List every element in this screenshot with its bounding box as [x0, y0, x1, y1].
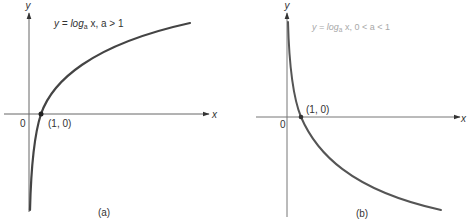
log-curve-increasing: [30, 23, 190, 210]
point-1-0-b: [299, 115, 304, 120]
function-title-b: y = loga x, 0 < a < 1: [311, 22, 390, 33]
y-axis-label-a: y: [25, 0, 32, 11]
origin-label-b: 0: [280, 119, 286, 130]
x-axis-label-a: x: [211, 109, 218, 120]
panel-b: y x 0 (1, 0) y = loga x, 0 < a < 1 (b): [256, 0, 467, 219]
caption-b: (b): [356, 208, 368, 219]
caption-a: (a): [98, 207, 110, 218]
log-curve-decreasing: [288, 22, 441, 210]
point-label-b: (1, 0): [306, 104, 329, 115]
x-axis-label-b: x: [460, 113, 467, 124]
point-1-0-a: [39, 112, 44, 117]
function-title-a: y = loga x, a > 1: [53, 18, 124, 30]
point-label-a: (1, 0): [48, 118, 71, 129]
log-graphs-figure: y x 0 (1, 0) y = loga x, a > 1 (a) y x 0…: [0, 0, 469, 223]
origin-label-a: 0: [20, 118, 26, 129]
panel-a: y x 0 (1, 0) y = loga x, a > 1 (a): [4, 0, 218, 218]
y-axis-label-b: y: [284, 0, 291, 11]
